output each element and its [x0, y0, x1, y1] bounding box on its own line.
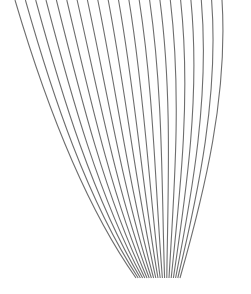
line-art-canvas [0, 0, 251, 294]
curve-line [171, 0, 185, 278]
curve-line [87, 0, 151, 278]
curve-line [119, 0, 159, 278]
curve-line [36, 0, 141, 278]
curve-line [25, 0, 138, 278]
curve-line [180, 0, 223, 278]
curve-line [46, 0, 143, 278]
